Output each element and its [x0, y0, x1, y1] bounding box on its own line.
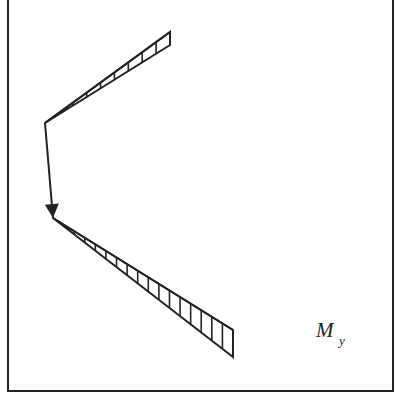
diagram-canvas	[0, 0, 395, 398]
moment-label: M	[316, 318, 334, 343]
moment-label-subscript: y	[339, 333, 345, 349]
bottom-moment-band	[53, 218, 233, 357]
moment-diagram: M y	[0, 0, 395, 398]
arrowhead-icon	[45, 203, 59, 218]
